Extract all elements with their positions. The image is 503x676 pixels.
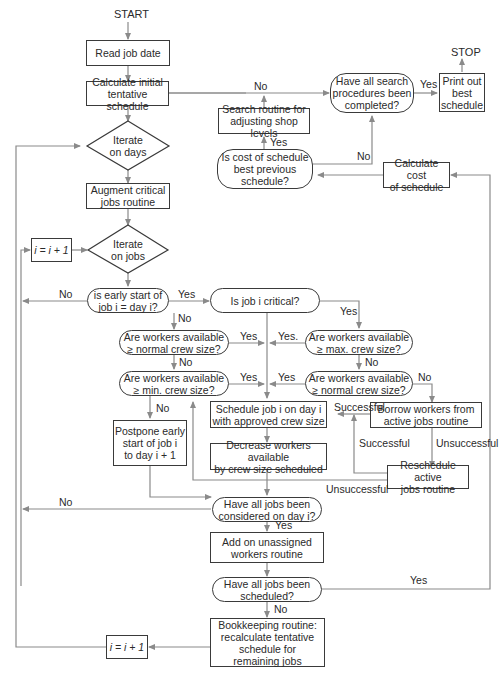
iterate-jobs-label: Iterate on jobs bbox=[98, 235, 158, 265]
start-terminal: START bbox=[114, 8, 149, 20]
edge-label-yes: Yes bbox=[340, 305, 357, 317]
read-job-date-box: Read job date bbox=[86, 40, 170, 66]
edge-label-successful: Successful bbox=[359, 437, 410, 449]
increment-i-bottom-box: i = i + 1 bbox=[106, 635, 148, 659]
edge-label-yes: Yes bbox=[240, 330, 257, 342]
edge-label-no: No bbox=[178, 312, 191, 324]
normal-crew-right-decision: Are workers available ≥ normal crew size… bbox=[305, 371, 413, 396]
iterate-days-label: Iterate on days bbox=[95, 131, 161, 161]
edge-label-yes: Yes bbox=[178, 288, 195, 300]
job-critical-decision: Is job i critical? bbox=[210, 288, 320, 313]
normal-crew-left-decision: Are workers available ≥ normal crew size… bbox=[119, 330, 229, 355]
edge-label-yes: Yes bbox=[410, 574, 427, 586]
edge-label-no: No bbox=[418, 371, 431, 383]
edge-label-successful: Successful bbox=[334, 401, 385, 413]
augment-critical-jobs-box: Augment critical jobs routine bbox=[86, 183, 170, 209]
min-crew-decision: Are workers available ≥ min. crew size? bbox=[119, 371, 229, 396]
all-jobs-considered-decision: Have all jobs been considered on day i? bbox=[212, 497, 322, 522]
bookkeeping-routine-box: Bookkeeping routine: recalculate tentati… bbox=[210, 618, 325, 667]
edge-label-no: No bbox=[274, 603, 287, 615]
edge-label-yes: Yes bbox=[278, 371, 295, 383]
all-jobs-scheduled-decision: Have all jobs been scheduled? bbox=[212, 577, 322, 602]
postpone-early-start-box: Postpone early start of job i to day i +… bbox=[113, 420, 187, 466]
print-best-schedule-box: Print out best schedule bbox=[439, 73, 485, 112]
cost-best-decision: Is cost of schedule best previous schedu… bbox=[217, 149, 313, 189]
edge-label-yes: Yes bbox=[275, 519, 292, 531]
stop-terminal: STOP bbox=[451, 46, 481, 58]
max-crew-decision: Are workers available ≥ max. crew size? bbox=[305, 330, 413, 355]
increment-i-top-box: i = i + 1 bbox=[31, 238, 72, 262]
edge-label-unsuccessful: Unsuccessful bbox=[436, 437, 498, 449]
edge-label-no: No bbox=[179, 356, 192, 368]
edge-label-yes: Yes bbox=[240, 371, 257, 383]
edge-label-no: No bbox=[59, 288, 72, 300]
edge-label-yes: Yes. bbox=[278, 330, 298, 342]
edge-label-no: No bbox=[365, 356, 378, 368]
edge-label-unsuccessful: Unsuccessful bbox=[326, 483, 388, 495]
add-unassigned-workers-box: Add on unassigned workers routine bbox=[210, 532, 324, 563]
calc-initial-schedule-box: Calculate initial tentative schedule bbox=[86, 81, 169, 106]
calculate-cost-box: Calculate cost of schedule bbox=[383, 162, 450, 188]
edge-label-no: No bbox=[254, 80, 267, 92]
edge-label-yes: Yes bbox=[420, 78, 437, 90]
decrease-workers-box: Decrease workers available by crew size … bbox=[210, 443, 327, 470]
search-routine-box: Search routine for adjusting shop levels bbox=[218, 108, 310, 134]
edge-label-no: No bbox=[59, 496, 72, 508]
edge-label-yes: Yes bbox=[270, 136, 287, 148]
search-completed-decision: Have all search procedures been complete… bbox=[330, 73, 414, 113]
schedule-job-box: Schedule job i on day i with approved cr… bbox=[210, 401, 327, 428]
early-start-decision: is early start of job i = day i? bbox=[87, 288, 169, 313]
reschedule-active-jobs-box: Reschedule active jobs routine bbox=[387, 465, 469, 489]
edge-label-no: No bbox=[156, 402, 169, 414]
edge-label-no: No bbox=[357, 150, 370, 162]
borrow-workers-box: Borrow workers from active jobs routine bbox=[370, 402, 482, 428]
